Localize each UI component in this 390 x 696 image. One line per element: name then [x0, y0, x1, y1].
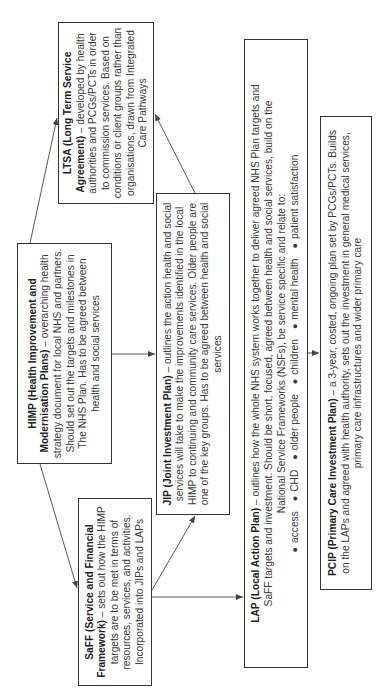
diagram-canvas: LTSA (Long Term Service Agreement) – dev… [0, 0, 390, 696]
jip-title: JIP (Joint Investment Plan) [162, 375, 173, 505]
himp-text: HIMP (Health Improvement and Modernisati… [27, 248, 103, 459]
ltsa-box: LTSA (Long Term Service Agreement) – dev… [58, 22, 154, 204]
arrow-saff-to-jip [152, 516, 195, 590]
ltsa-text: LTSA (Long Term Service Agreement) – dev… [62, 27, 150, 199]
lap-bullet-item: access [289, 511, 302, 552]
lap-bullet-item: CHD [289, 470, 302, 502]
lap-bullet-item: children [289, 339, 302, 384]
lap-title: LAP (Local Action Plan) [250, 508, 261, 623]
jip-text: JIP (Joint Investment Plan) – outlines t… [162, 198, 225, 510]
arrow-himp-to-saff [40, 464, 77, 588]
pcip-text: PCIP (Primary Care Investment Plan) – a … [327, 121, 365, 585]
lap-text: LAP (Local Action Plan) – outlines how t… [250, 44, 288, 663]
arrow-jip-to-ltsa [155, 114, 195, 193]
lap-bullet-item: older people [289, 394, 302, 460]
saff-text: SaFF (Service and Financial Framework) –… [84, 503, 147, 681]
lap-box: LAP (Local Action Plan) – outlines how t… [244, 39, 308, 668]
pcip-box: PCIP (Primary Care Investment Plan) – a … [320, 116, 372, 590]
saff-box: SaFF (Service and Financial Framework) –… [78, 498, 152, 686]
himp-box: HIMP (Health Improvement and Modernisati… [17, 243, 112, 464]
lap-bullet-item: mental health [289, 258, 302, 329]
lap-bullet-item: patient satisfaction [289, 155, 302, 249]
pcip-title: PCIP (Primary Care Investment Plan) [327, 398, 338, 576]
arrow-himp-to-ltsa [30, 118, 57, 243]
lap-bullet-list: access CHD older people children mental … [289, 44, 302, 663]
jip-box: JIP (Joint Investment Plan) – outlines t… [156, 193, 230, 515]
